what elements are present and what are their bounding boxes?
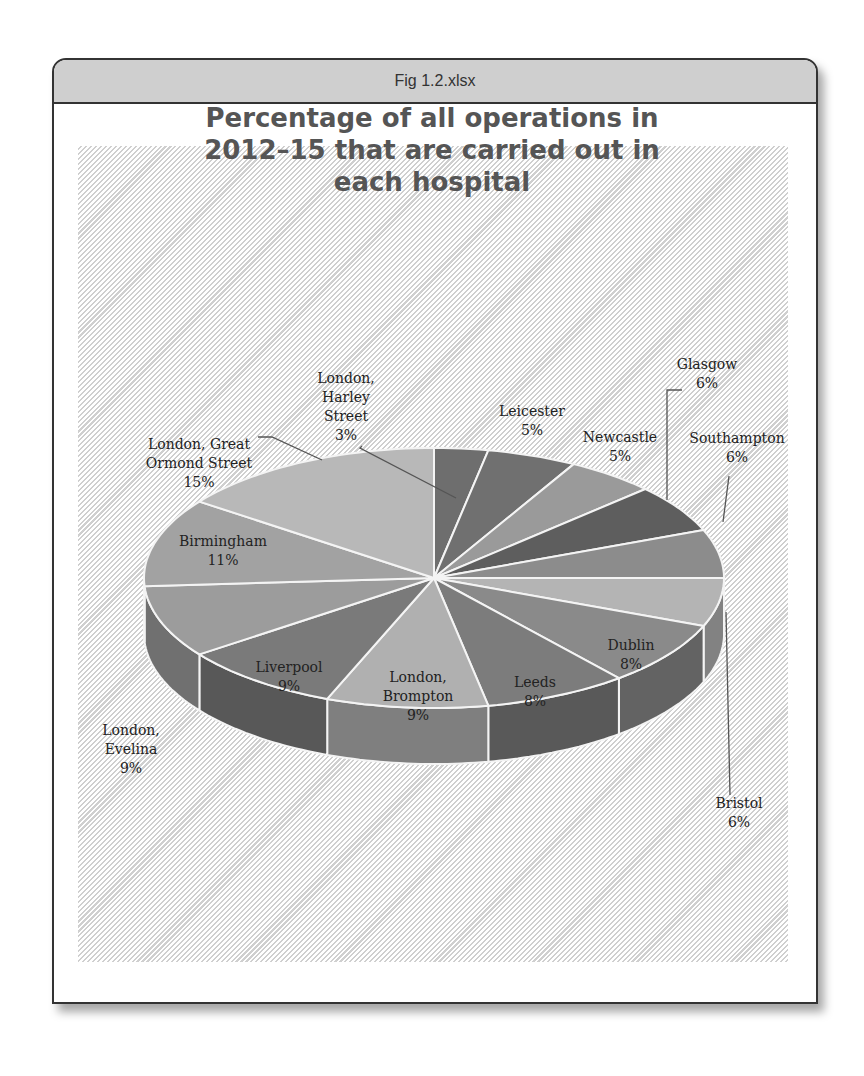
data-label: Glasgow6% [677,356,738,391]
data-label: Leicester5% [499,403,565,438]
chart-area: Percentage of all operations in 2012–15 … [0,0,864,1076]
data-label: Southampton6% [689,430,784,465]
leader-line [723,476,729,522]
leader-line [667,390,682,500]
data-label: London,HarleyStreet3% [317,370,375,443]
leader-line [258,437,322,460]
data-label: London,Evelina9% [102,722,160,776]
pie-chart: London,HarleyStreet3%Leicester5%Newcastl… [0,0,864,1076]
data-label: Newcastle5% [583,429,657,464]
data-label: Bristol6% [715,795,763,830]
leader-line [726,612,730,795]
